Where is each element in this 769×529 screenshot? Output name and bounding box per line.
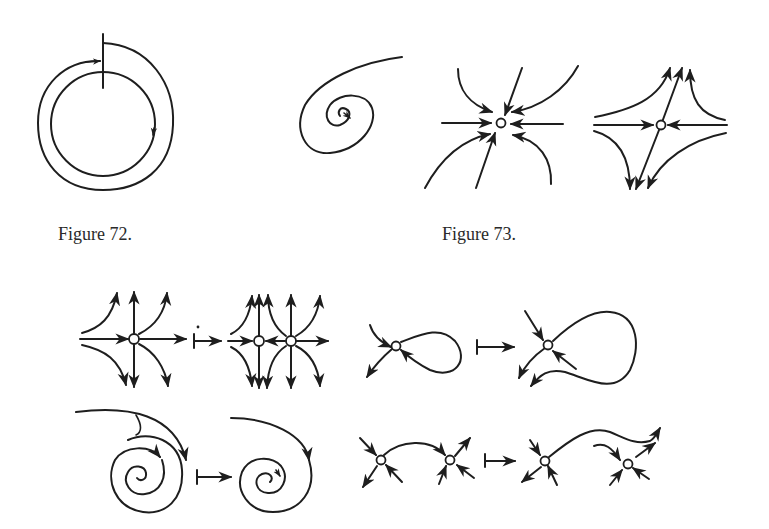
separatrix-loop-after xyxy=(519,311,636,386)
separatrix-loop-before xyxy=(367,325,461,377)
equilibrium-point xyxy=(497,119,506,128)
saddle-point xyxy=(544,341,553,350)
saddle-node-splitting-after xyxy=(228,295,328,388)
saddle-point-left xyxy=(377,456,386,465)
saddle-connection-before xyxy=(360,438,474,487)
figure-73-saddle xyxy=(594,68,727,189)
saddle-point xyxy=(657,121,666,130)
saddle-point-right xyxy=(624,460,633,469)
figure-72-focus-spiral xyxy=(300,57,402,153)
spiral-cycle-before xyxy=(76,410,186,512)
maps-to-arrow-2 xyxy=(477,340,514,354)
saddle-connection-after xyxy=(522,428,660,485)
figure-page xyxy=(0,0,769,529)
figure-72-cycle-diagram xyxy=(38,34,173,190)
maps-to-arrow-1 xyxy=(194,326,221,348)
node-point xyxy=(254,336,264,346)
saddle-point-left xyxy=(541,457,550,466)
maps-to-arrow-4 xyxy=(485,454,515,467)
spiral-cycle-after xyxy=(231,418,311,512)
degenerate-point xyxy=(129,334,139,344)
saddle-point xyxy=(392,342,401,351)
saddle-node-splitting-before xyxy=(80,292,186,387)
figure-73-caption: Figure 73. xyxy=(442,224,516,245)
saddle-point-right xyxy=(446,456,455,465)
figure-73-stable-node xyxy=(425,66,578,188)
maps-to-arrow-3 xyxy=(197,470,231,484)
saddle-point xyxy=(286,336,296,346)
figure-72-caption: Figure 72. xyxy=(58,224,132,245)
